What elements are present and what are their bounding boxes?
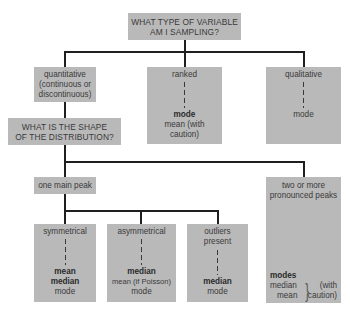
connector-quant-to-shape	[64, 102, 66, 118]
dashed-connector	[141, 239, 142, 265]
connector-to-quantitative	[64, 51, 66, 67]
connector-to-asymmetrical	[140, 210, 142, 224]
connector-shape-down	[64, 145, 66, 162]
multi-peak-box: two or more pronounced peaks modes media…	[266, 177, 341, 303]
ranked-secondary-2: caution)	[147, 130, 222, 140]
outliers-measure-1: median	[187, 277, 248, 287]
ranked-primary-measure: mode	[147, 110, 222, 120]
quantitative-sub1: (continuous or	[34, 80, 96, 90]
shape-line2: OF THE DISTRIBUTION?	[8, 132, 121, 142]
multi-peak-label-2: pronounced peaks	[266, 191, 341, 201]
connector-to-one-peak	[64, 161, 66, 177]
title-line2: AM I SAMPLING?	[128, 27, 241, 37]
outliers-measure-2: mode	[187, 287, 248, 297]
asymmetrical-label: asymmetrical	[107, 227, 176, 237]
connector-to-outliers	[217, 210, 219, 224]
qualitative-label: qualitative	[266, 70, 341, 80]
connector-to-qualitative	[303, 51, 305, 67]
quantitative-sub2: discontinuous)	[34, 90, 96, 100]
shape-line1: WHAT IS THE SHAPE	[8, 122, 121, 132]
connector-peaks-bar	[64, 161, 304, 163]
ranked-label: ranked	[147, 70, 222, 80]
one-peak-label: one main peak	[34, 181, 96, 191]
symmetrical-measure-1: mean	[34, 267, 96, 277]
outliers-box: outliers present median mode	[187, 224, 248, 302]
multi-peak-caveat-2: caution)	[308, 291, 337, 301]
dashed-connector	[217, 250, 218, 275]
connector-to-multi-peak	[303, 161, 305, 177]
quantitative-box: quantitative (continuous or discontinuou…	[34, 67, 96, 102]
symmetrical-measure-3: mode	[34, 287, 96, 297]
title-line1: WHAT TYPE OF VARIABLE	[128, 17, 241, 27]
multi-peak-label-1: two or more	[266, 181, 341, 191]
connector-one-peak-down	[64, 194, 66, 224]
asymmetrical-measure-1: median	[107, 267, 176, 277]
connector-to-ranked	[184, 51, 186, 67]
multi-peak-primary: modes	[270, 271, 296, 281]
dashed-connector	[184, 82, 185, 108]
dashed-connector	[303, 82, 304, 108]
dashed-connector	[65, 239, 66, 265]
asymmetrical-measure-2: mean (if Poisson)	[107, 277, 176, 287]
one-peak-box: one main peak	[34, 177, 96, 194]
asymmetrical-measure-3: mode	[107, 287, 176, 297]
qualitative-primary-measure: mode	[266, 110, 341, 120]
symmetrical-box: symmetrical mean median mode	[34, 224, 96, 302]
symmetrical-label: symmetrical	[34, 227, 96, 237]
multi-peak-caveat-1: (with	[320, 281, 337, 291]
outliers-label-1: outliers	[187, 227, 248, 237]
ranked-box: ranked mode mean (with caution)	[147, 67, 222, 144]
title-box: WHAT TYPE OF VARIABLE AM I SAMPLING?	[128, 13, 241, 40]
shape-question-box: WHAT IS THE SHAPE OF THE DISTRIBUTION?	[8, 118, 121, 145]
ranked-secondary-1: mean (with	[147, 120, 222, 130]
asymmetrical-box: asymmetrical median mean (if Poisson) mo…	[107, 224, 176, 302]
qualitative-box: qualitative mode	[266, 67, 341, 144]
quantitative-label: quantitative	[34, 70, 96, 80]
multi-peak-secondary-2: mean	[277, 291, 297, 301]
outliers-label-2: present	[187, 237, 248, 247]
symmetrical-measure-2: median	[34, 277, 96, 287]
multi-peak-secondary-1: median	[270, 281, 297, 291]
